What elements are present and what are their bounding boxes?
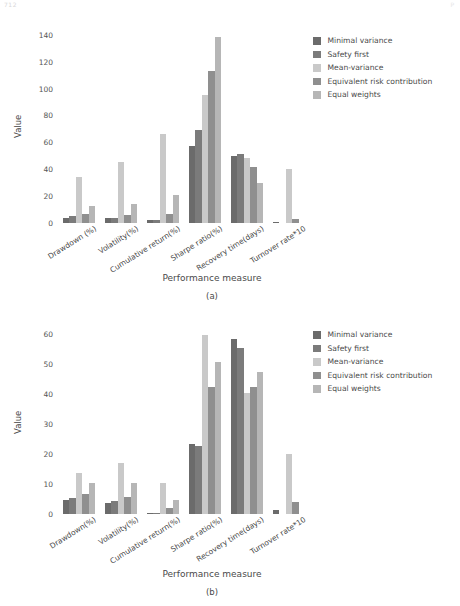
bar[interactable]	[173, 500, 180, 514]
bar[interactable]	[147, 513, 154, 515]
bar[interactable]	[250, 167, 257, 223]
bar[interactable]	[118, 463, 125, 514]
legend-item[interactable]: Minimal variance	[313, 328, 432, 342]
legend-item[interactable]: Mean-variance	[313, 61, 432, 75]
bar[interactable]	[63, 500, 70, 514]
legend-item[interactable]: Safety first	[313, 342, 432, 356]
legend-item[interactable]: Equivalent risk contribution	[313, 369, 432, 383]
x-tick-label: Cumulative return(%)	[108, 224, 182, 275]
bar[interactable]	[250, 387, 257, 515]
legend-b: Minimal varianceSafety firstMean-varianc…	[313, 328, 432, 396]
bar[interactable]	[189, 146, 196, 223]
bar[interactable]	[82, 494, 89, 514]
legend-item-label: Equal weights	[328, 384, 381, 393]
bar[interactable]	[231, 339, 238, 514]
y-tick-label: 140	[39, 30, 53, 39]
bar[interactable]	[286, 169, 293, 223]
bar[interactable]	[173, 195, 180, 223]
legend-swatch-icon	[313, 345, 321, 353]
y-tick-label: 100	[39, 84, 53, 93]
bar[interactable]	[111, 218, 118, 223]
subfigure-caption-a: (a)	[0, 291, 442, 301]
bar[interactable]	[208, 387, 215, 515]
bar[interactable]	[244, 393, 251, 514]
bar-group	[58, 328, 100, 514]
legend-item[interactable]: Mean-variance	[313, 355, 432, 369]
bar[interactable]	[131, 483, 138, 514]
y-tick-label: 120	[39, 57, 53, 66]
legend-item-label: Equivalent risk contribution	[328, 371, 433, 380]
bar[interactable]	[257, 372, 264, 514]
legend-swatch-icon	[313, 64, 321, 72]
legend-item-label: Equivalent risk contribution	[328, 77, 433, 86]
bar[interactable]	[153, 220, 160, 223]
legend-item[interactable]: Minimal variance	[313, 34, 432, 48]
legend-item-label: Safety first	[328, 50, 370, 59]
bar-group	[184, 328, 226, 514]
bar[interactable]	[273, 510, 280, 514]
bar[interactable]	[69, 216, 76, 223]
bar-group	[58, 28, 100, 223]
bar[interactable]	[124, 497, 131, 514]
bar[interactable]	[166, 214, 173, 223]
legend-swatch-icon	[313, 385, 321, 393]
bar[interactable]	[257, 183, 264, 223]
bar-group	[184, 28, 226, 223]
bar[interactable]	[292, 219, 299, 223]
bar[interactable]	[147, 220, 154, 223]
bar[interactable]	[215, 362, 222, 514]
bar[interactable]	[69, 498, 76, 514]
legend-item-label: Minimal variance	[328, 330, 393, 339]
bar[interactable]	[124, 215, 131, 223]
bar[interactable]	[215, 37, 222, 223]
x-axis-label-a: Performance measure	[0, 273, 442, 283]
bar[interactable]	[153, 513, 160, 514]
bar[interactable]	[63, 218, 70, 223]
bar[interactable]	[237, 154, 244, 223]
bar[interactable]	[105, 218, 112, 223]
bar-group	[100, 328, 142, 514]
legend-swatch-icon	[313, 78, 321, 86]
legend-item[interactable]: Equivalent risk contribution	[313, 75, 432, 89]
bar[interactable]	[244, 158, 251, 223]
bar[interactable]	[131, 204, 138, 223]
bar[interactable]	[208, 71, 215, 223]
bar[interactable]	[202, 95, 209, 223]
bar[interactable]	[105, 503, 112, 514]
bar[interactable]	[160, 483, 167, 515]
bar-group	[142, 28, 184, 223]
legend-swatch-icon	[313, 51, 321, 59]
y-tick-label: 80	[43, 111, 53, 120]
bar[interactable]	[76, 177, 83, 223]
bar[interactable]	[111, 501, 118, 514]
bar[interactable]	[195, 446, 202, 514]
legend-item[interactable]: Equal weights	[313, 382, 432, 396]
legend-swatch-icon	[313, 372, 321, 380]
legend-item-label: Mean-variance	[328, 63, 384, 72]
bar[interactable]	[166, 508, 173, 514]
legend-item[interactable]: Equal weights	[313, 88, 432, 102]
bar[interactable]	[76, 473, 83, 514]
subfigure-caption-b: (b)	[0, 587, 442, 597]
bar[interactable]	[160, 134, 167, 223]
bar[interactable]	[89, 206, 96, 223]
bar[interactable]	[189, 444, 196, 514]
y-tick-label: 60	[43, 138, 53, 147]
bar[interactable]	[202, 335, 209, 514]
bar[interactable]	[118, 162, 125, 223]
bar[interactable]	[89, 483, 96, 514]
bar[interactable]	[231, 156, 238, 223]
y-tick-label: 0	[48, 510, 53, 519]
legend-item-label: Safety first	[328, 344, 370, 353]
y-tick-label: 20	[43, 192, 53, 201]
bar[interactable]	[195, 130, 202, 223]
legend-item[interactable]: Safety first	[313, 48, 432, 62]
bar[interactable]	[286, 454, 293, 514]
bar[interactable]	[237, 348, 244, 514]
y-tick-label: 60	[43, 330, 53, 339]
figure-a: Value 020406080100120140 Drawdown (%)Vol…	[0, 8, 460, 300]
bar[interactable]	[292, 502, 299, 514]
bar[interactable]	[273, 222, 280, 223]
bar[interactable]	[82, 214, 89, 223]
page-header-right: P	[450, 1, 454, 8]
